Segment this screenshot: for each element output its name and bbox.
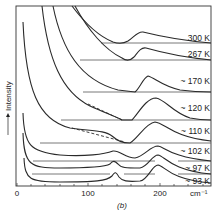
label-102K: ~ 102 K: [180, 146, 210, 156]
dashed-baseline-110K: [72, 128, 125, 142]
label-170K: ~ 170 K: [180, 76, 210, 86]
label-97K: ~ 97 K: [185, 163, 210, 173]
label-267K: 267 K: [188, 49, 211, 59]
spectra-curves: [23, 6, 211, 183]
label-120K: ~ 120 K: [180, 103, 210, 113]
x-tick-0: 0: [15, 189, 20, 198]
label-93K: ~ 93 K: [185, 176, 210, 186]
x-tick-200: 200: [153, 189, 167, 198]
x-tick-100: 100: [81, 189, 95, 198]
plot-frame: [16, 6, 211, 186]
label-110K: ~ 110 K: [181, 126, 210, 136]
raman-spectra-chart: 300 K 267 K ~ 170 K ~ 120 K ~ 110 K ~ 10…: [0, 0, 218, 212]
panel-label: (b): [117, 201, 127, 210]
x-axis-unit: cm⁻¹: [190, 189, 208, 198]
y-axis-label: Intensity: [4, 81, 13, 135]
label-300K: 300 K: [188, 33, 211, 43]
series-labels: 300 K 267 K ~ 170 K ~ 120 K ~ 110 K ~ 10…: [180, 33, 210, 186]
curve-93K: [24, 158, 211, 183]
svg-text:Intensity: Intensity: [4, 81, 13, 111]
arrow-up-icon: [6, 113, 10, 117]
